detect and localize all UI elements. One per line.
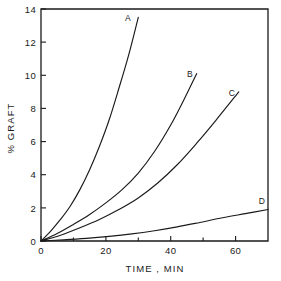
y-axis-ticks: [41, 9, 46, 241]
y-tick-label-12: 12: [25, 37, 36, 48]
curve-label-a: A: [125, 13, 131, 23]
curve-b: [41, 74, 197, 241]
x-tick-label-20: 20: [100, 245, 111, 256]
curve-d: [41, 210, 268, 241]
plot-frame: [41, 9, 268, 241]
curve-label-d: D: [259, 196, 266, 206]
x-axis-ticks: [41, 236, 236, 241]
x-tick-label-0: 0: [38, 245, 44, 256]
y-tick-label-10: 10: [25, 70, 36, 81]
y-tick-label-2: 2: [30, 203, 36, 214]
curve-labels: A B C D: [125, 13, 265, 206]
y-tick-label-6: 6: [30, 136, 36, 147]
y-tick-label-4: 4: [30, 169, 36, 180]
plot-canvas: 0 2 4 6 8 10 12 14 0 20 40 60 TIME , MIN…: [0, 0, 281, 281]
x-axis-title: TIME , MIN: [125, 263, 184, 274]
curve-c: [41, 92, 239, 241]
x-axis-tick-labels: 0 20 40 60: [38, 245, 241, 256]
curve-label-c: C: [229, 88, 236, 98]
curve-label-b: B: [187, 69, 193, 79]
x-tick-label-40: 40: [165, 245, 176, 256]
y-axis-tick-labels: 0 2 4 6 8 10 12 14: [25, 4, 36, 247]
data-curves: [41, 17, 268, 241]
y-axis-title: % GRAFT: [5, 103, 16, 154]
y-tick-label-14: 14: [25, 4, 36, 15]
chart-figure: 0 2 4 6 8 10 12 14 0 20 40 60 TIME , MIN…: [0, 0, 281, 281]
y-tick-label-0: 0: [30, 236, 36, 247]
x-tick-label-60: 60: [230, 245, 241, 256]
y-tick-label-8: 8: [30, 103, 36, 114]
